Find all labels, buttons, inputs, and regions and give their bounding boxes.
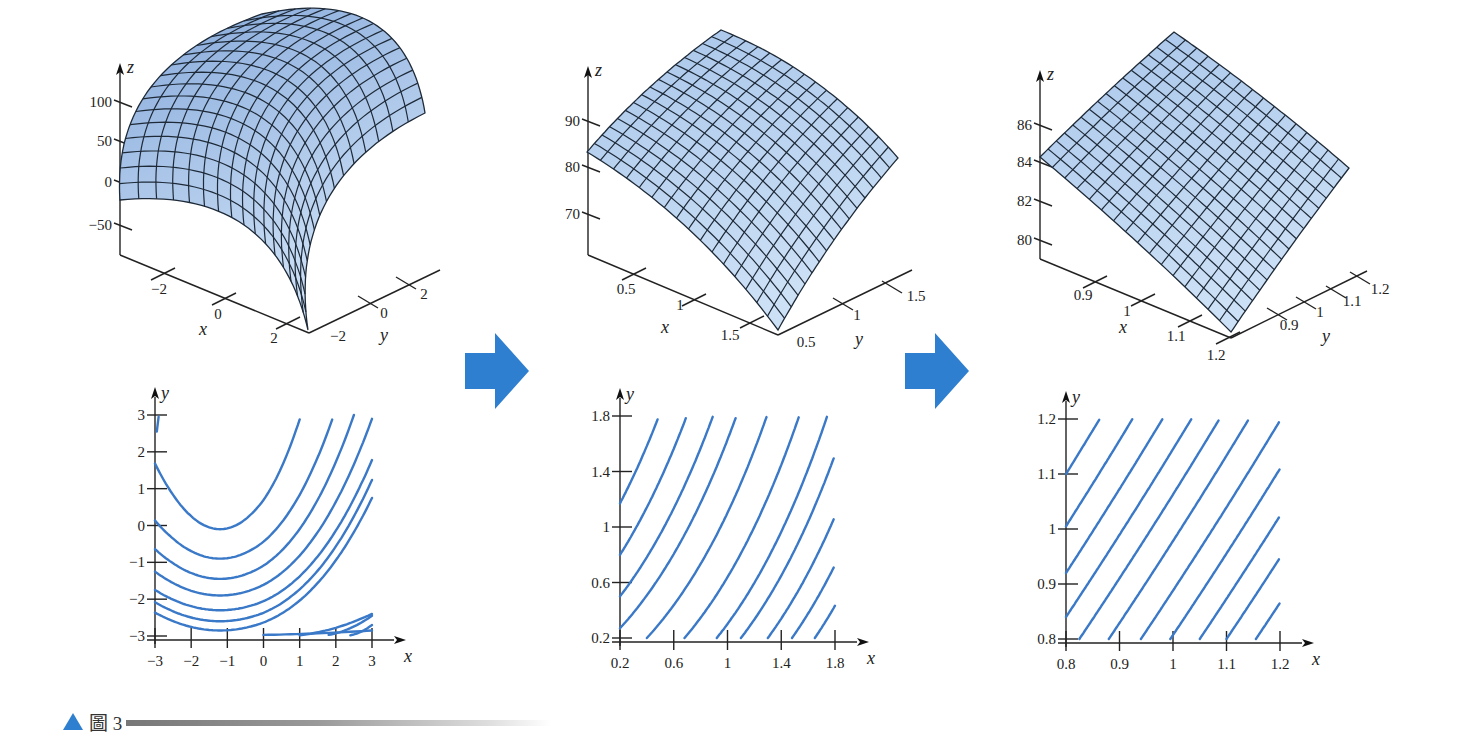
z-tick: [582, 119, 600, 126]
z-tick-label: 90: [565, 113, 580, 129]
y-axis-label: y: [624, 384, 634, 404]
x-tick: [1131, 294, 1155, 306]
y-tick-label: 0: [380, 305, 388, 321]
surface-plot-3: z868482800.911.11.20.911.11.2xy: [1017, 32, 1389, 363]
y-tick: [882, 281, 902, 293]
x-tick-label: −2: [183, 653, 199, 669]
x-tick-label: −3: [147, 653, 163, 669]
y-axis-label: y: [378, 325, 388, 345]
axis-arrow-icon: [394, 636, 406, 644]
x-tick-label: 0: [214, 306, 222, 322]
z-tick: [1034, 199, 1052, 206]
y-axis-label: y: [1320, 326, 1330, 346]
contour-plot-3: yx0.80.911.11.21.21.110.90.8: [1037, 387, 1320, 672]
x-tick-label: −2: [151, 281, 167, 297]
z-axis-label: z: [126, 57, 134, 77]
x-tick-label: 2: [270, 330, 278, 346]
z-tick: [114, 223, 132, 230]
z-tick-label: 80: [565, 159, 580, 175]
x-tick-label: 1.1: [1167, 328, 1186, 344]
y-tick-label: 0.6: [591, 575, 610, 591]
z-tick-label: −50: [89, 217, 112, 233]
z-axis-label: z: [1046, 64, 1054, 84]
x-axis-label: x: [866, 648, 875, 668]
y-tick-label: −3: [129, 628, 145, 644]
y-tick-label: 1: [1316, 304, 1324, 320]
axis-arrow-icon: [857, 638, 869, 646]
y-tick-label: 1: [603, 519, 611, 535]
y-tick-label: 1.4: [591, 464, 610, 480]
z-tick: [1034, 123, 1052, 130]
y-tick-label: 1.2: [1037, 411, 1056, 427]
x-tick-label: 1.1: [1217, 656, 1236, 672]
surface-plot-1: z100500−50−20202xy−2: [89, 8, 440, 346]
contour-line: [1109, 421, 1248, 639]
y-tick-label: 0.8: [1037, 631, 1056, 647]
z-tick-label: 50: [97, 133, 112, 149]
x-axis-label: x: [660, 317, 669, 337]
x-tick-label: 0.9: [1110, 656, 1129, 672]
contour-line: [1079, 421, 1218, 639]
contour-line: [1066, 419, 1132, 526]
contour-line: [1066, 420, 1099, 474]
y-tick-label: 0.5: [797, 334, 816, 350]
x-tick-label: 0.5: [617, 281, 636, 297]
y-axis-label: y: [853, 329, 863, 349]
x-tick-label: 1: [1169, 656, 1177, 672]
x-tick-label: 3: [368, 653, 376, 669]
contour-line: [815, 606, 835, 638]
z-tick-label: 0: [105, 174, 113, 190]
contour-line: [155, 419, 372, 596]
x-tick-label: 0: [260, 653, 268, 669]
x-tick-label: 1.2: [1207, 347, 1226, 363]
z-tick-label: 100: [90, 94, 113, 110]
x-tick-label: 0.2: [611, 655, 630, 671]
contour-line: [155, 420, 332, 559]
right-arrow-icon: [465, 333, 529, 409]
contour-plot-1: yx−3−2−101233210−1−2−3: [129, 383, 412, 669]
x-tick: [740, 316, 764, 328]
z-tick-label: 70: [565, 206, 580, 222]
x-tick-label: 1.4: [772, 655, 791, 671]
y-tick-label: 2: [420, 286, 428, 302]
x-tick-label: 1: [676, 297, 684, 313]
z-tick: [582, 165, 600, 172]
contour-line: [717, 417, 827, 638]
contour-line: [1066, 419, 1191, 617]
y-tick-label: 1.2: [1371, 281, 1390, 297]
x-axis-label: x: [198, 319, 207, 339]
y-tick-label: 1.8: [591, 408, 610, 424]
contour-line: [155, 419, 300, 529]
zoom-arrows: [465, 333, 969, 409]
x-tick-label: 0.6: [664, 655, 683, 671]
y-axis-label: y: [159, 383, 169, 403]
x-tick-label: 0.8: [1057, 656, 1076, 672]
x-tick-label: 1: [296, 653, 304, 669]
x-tick-label: 1.8: [826, 655, 845, 671]
y-tick-label: −2: [330, 328, 346, 344]
contour-line: [1227, 559, 1279, 639]
z-tick: [1034, 238, 1052, 245]
z-tick-label: 82: [1017, 193, 1032, 209]
y-axis-label: y: [1070, 387, 1080, 407]
z-tick-label: 86: [1017, 117, 1033, 133]
figure-canvas: z100500−50−20202xy−2 z9080700.511.511.5x…: [0, 0, 1457, 742]
x-axis-label: x: [1311, 649, 1320, 669]
x-axis-label: x: [403, 646, 412, 666]
x-tick-label: 0.9: [1074, 287, 1093, 303]
contour-line: [1170, 470, 1279, 639]
y-tick-label: 1: [138, 481, 146, 497]
contour-line: [1141, 422, 1279, 639]
y-tick-label: 1.1: [1037, 466, 1056, 482]
contour-line: [1256, 604, 1280, 639]
y-tick-label: −1: [129, 554, 145, 570]
x-tick-label: 1: [724, 655, 732, 671]
contour-line: [157, 417, 159, 432]
surface-plot-2: z9080700.511.511.5xy0.5: [565, 30, 925, 350]
y-tick-label: 3: [138, 407, 146, 423]
z-tick: [114, 100, 132, 107]
y-tick-label: 0.9: [1037, 576, 1056, 592]
y-tick-label: −2: [129, 591, 145, 607]
z-tick-label: 80: [1017, 232, 1032, 248]
z-tick-label: 84: [1017, 154, 1033, 170]
